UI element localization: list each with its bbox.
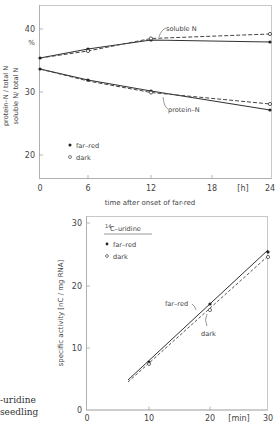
figure-canvas: 40 30 20 % 0 6 12 18 24 [h] time after o… <box>0 0 275 422</box>
caption-line-2: seedling <box>0 407 38 417</box>
farred-leader <box>192 304 196 310</box>
top-dark-markers <box>86 32 271 105</box>
top-y-ticks: 40 30 20 % <box>25 25 43 160</box>
top-xtick-24: 24 <box>265 184 275 193</box>
dark-leader <box>206 314 208 326</box>
bottom-ytick-30: 30 <box>72 219 82 228</box>
top-x-label: time after onset of far-red <box>105 199 196 207</box>
bottom-xtick-30: 30 <box>263 414 273 422</box>
protein-n-dark-line <box>40 69 270 104</box>
bottom-legend: 14 C–uridine far–red dark <box>104 223 152 261</box>
top-ytick-30: 30 <box>25 88 35 97</box>
bottom-legend-dark: dark <box>113 253 128 261</box>
legend-filled-dot-icon <box>106 243 109 246</box>
caption-line-1: -uridine <box>0 395 36 405</box>
bottom-legend-farred: far–red <box>113 241 136 249</box>
annotation-farred: far–red <box>165 300 188 308</box>
top-x-unit: [h] <box>237 184 248 193</box>
top-chart: 40 30 20 % 0 6 12 18 24 [h] time after o… <box>2 6 275 208</box>
top-ytick-40: 40 <box>25 25 35 34</box>
bottom-xtick-0: 0 <box>84 414 89 422</box>
legend-open-dot-icon <box>106 255 109 258</box>
top-xtick-6: 6 <box>85 184 90 193</box>
protein-n-farred-line <box>40 69 270 110</box>
top-ytick-20: 20 <box>25 151 35 160</box>
legend-filled-dot-icon <box>69 144 72 147</box>
soluble-n-leader <box>159 28 166 37</box>
bottom-y-ticks: 30 20 10 0 <box>72 219 90 415</box>
top-legend-dark: dark <box>76 154 91 162</box>
top-x-ticks: 0 6 12 18 24 [h] <box>37 175 275 193</box>
bottom-ytick-0: 0 <box>77 406 82 415</box>
bottom-ytick-20: 20 <box>72 282 82 291</box>
top-y-unit-percent: % <box>28 39 35 47</box>
top-y-label-soluble: soluble N/ total N <box>12 67 20 124</box>
legend-open-dot-icon <box>69 156 72 159</box>
top-xtick-12: 12 <box>146 184 156 193</box>
annotation-protein-n: protein–N <box>168 106 200 114</box>
bottom-x-unit: [min] <box>228 414 249 422</box>
top-xtick-0: 0 <box>37 184 42 193</box>
bottom-xtick-20: 20 <box>205 414 215 422</box>
bottom-y-label: specific activity [nC / mg RNA] <box>57 259 65 366</box>
annotation-dark: dark <box>201 330 216 338</box>
bottom-ytick-10: 10 <box>72 344 82 353</box>
legend-title: C–uridine <box>110 225 141 233</box>
top-y-label-protein: protein–N / total N <box>2 66 10 126</box>
bottom-x-ticks: 0 10 20 30 [min] <box>84 407 273 422</box>
top-xtick-18: 18 <box>207 184 217 193</box>
top-legend: far–red dark <box>69 142 100 162</box>
soluble-n-dark-line <box>40 34 270 58</box>
bottom-chart: 30 20 10 0 0 10 20 30 [min] specific act… <box>57 217 273 422</box>
soluble-n-farred-line <box>40 40 270 58</box>
bottom-dark-markers <box>148 255 270 365</box>
top-legend-farred: far–red <box>76 142 99 150</box>
bottom-xtick-10: 10 <box>144 414 154 422</box>
annotation-soluble-n: soluble N <box>166 25 197 33</box>
